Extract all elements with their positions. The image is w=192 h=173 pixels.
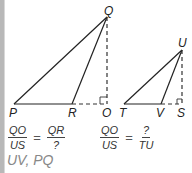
denominator: US <box>102 138 117 151</box>
denominator: TU <box>139 138 154 151</box>
denominator: US <box>10 138 25 151</box>
numerator: QO <box>100 124 119 138</box>
label-r: R <box>68 106 77 120</box>
label-q: Q <box>104 4 113 18</box>
equals-sign: = <box>33 130 41 145</box>
segment-tu <box>124 50 182 104</box>
label-o: O <box>102 106 111 120</box>
segment-rq <box>72 17 107 104</box>
triangle-pqr <box>14 17 107 104</box>
fraction-qr-unknown: QR ? <box>47 124 66 151</box>
equation-left: QO US = QR ? <box>8 124 65 151</box>
equation-right: QO US = ? TU <box>100 124 153 151</box>
triangle-tuv <box>124 50 182 104</box>
numerator: QR <box>47 124 66 138</box>
fraction-qo-us: QO US <box>100 124 119 151</box>
label-t: T <box>119 106 128 120</box>
label-s: S <box>177 106 185 120</box>
right-angle-mark-o <box>100 97 107 104</box>
label-u: U <box>178 36 187 50</box>
segment-pq <box>14 17 107 104</box>
label-p: P <box>9 106 17 120</box>
label-v: V <box>156 106 165 120</box>
fraction-qo-us: QO US <box>8 124 27 151</box>
numerator: ? <box>142 124 150 138</box>
segment-vu <box>161 50 182 104</box>
numerator: QO <box>8 124 27 138</box>
answer-text: UV, PQ <box>7 152 53 168</box>
fraction-unknown-tu: ? TU <box>139 124 154 151</box>
right-angle-mark-s <box>177 99 182 104</box>
denominator: ? <box>53 138 59 151</box>
equals-sign: = <box>125 130 133 145</box>
